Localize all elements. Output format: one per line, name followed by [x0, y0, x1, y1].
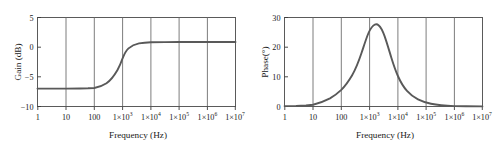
phase-xtick-1: 1	[283, 113, 287, 122]
phase-gridlines	[313, 18, 454, 107]
phase-x-axis-title: Frequency (Hz)	[356, 130, 414, 140]
gain-xtick-10: 10	[62, 113, 70, 122]
phase-xtick-1e7: 1×107	[472, 111, 492, 121]
gain-xtick-1e3: 1×103	[113, 111, 133, 121]
gain-plot-area	[38, 18, 236, 111]
phase-y-ticklabels: 30 20 10 0	[272, 14, 280, 112]
gain-ytick-neg5: −5	[25, 73, 34, 82]
gain-gridlines	[66, 18, 207, 107]
phase-plot-area	[285, 18, 483, 111]
gain-xtick-1e5: 1×105	[169, 111, 189, 121]
gain-xtick-1e6: 1×106	[198, 111, 218, 121]
phase-x-tickmarks	[285, 107, 483, 111]
gain-xtick-1: 1	[36, 113, 40, 122]
gain-ytick-neg10: −10	[21, 103, 34, 112]
gain-ytick-5: 5	[29, 14, 33, 23]
gain-xtick-1e4: 1×104	[141, 111, 161, 121]
gain-y-axis-title: Gain (dB)	[13, 44, 23, 81]
gain-x-axis-title: Frequency (Hz)	[109, 130, 167, 140]
phase-chart-svg: 30 20 10 0 1 10 100 1×103 1×104 1×105 1×…	[246, 0, 493, 153]
gain-plot-frame	[38, 18, 236, 107]
phase-xtick-10: 10	[309, 113, 317, 122]
gain-x-ticklabels: 1 10 100 1×103 1×104 1×105 1×106 1×107	[36, 111, 245, 121]
gain-chart-panel: 5 0 −5 −10 1 10 100 1×103 1×104 1×105 1×…	[0, 0, 247, 153]
phase-y-tickmarks	[285, 18, 289, 107]
phase-curve	[285, 24, 483, 106]
gain-curve	[38, 42, 236, 89]
phase-ytick-0: 0	[276, 103, 280, 112]
phase-chart-panel: 30 20 10 0 1 10 100 1×103 1×104 1×105 1×…	[246, 0, 493, 153]
gain-x-tickmarks	[38, 107, 236, 111]
phase-ytick-20: 20	[272, 43, 280, 52]
gain-chart-svg: 5 0 −5 −10 1 10 100 1×103 1×104 1×105 1×…	[0, 0, 247, 153]
gain-y-tickmarks	[38, 18, 42, 107]
gain-xtick-1e7: 1×107	[225, 111, 245, 121]
phase-ytick-30: 30	[272, 14, 280, 23]
gain-xtick-100: 100	[88, 113, 100, 122]
phase-y-axis-title: Phase(°)	[260, 46, 270, 77]
phase-ytick-10: 10	[272, 73, 280, 82]
phase-x-ticklabels: 1 10 100 1×103 1×104 1×105 1×106 1×107	[283, 111, 492, 121]
phase-xtick-1e4: 1×104	[388, 111, 408, 121]
phase-xtick-100: 100	[335, 113, 347, 122]
phase-xtick-1e3: 1×103	[360, 111, 380, 121]
phase-xtick-1e5: 1×105	[416, 111, 436, 121]
phase-xtick-1e6: 1×106	[445, 111, 465, 121]
bode-plot-figure: 5 0 −5 −10 1 10 100 1×103 1×104 1×105 1×…	[0, 0, 493, 153]
gain-ytick-0: 0	[29, 43, 33, 52]
